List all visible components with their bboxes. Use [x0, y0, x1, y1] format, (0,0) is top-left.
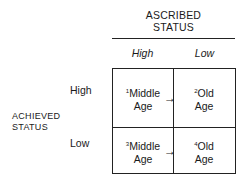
row-axis-title-line2: STATUS — [12, 122, 60, 133]
column-axis-title-line2: STATUS — [112, 21, 235, 33]
cell-2-line1: Old — [198, 87, 214, 99]
column-axis-rule — [112, 38, 235, 39]
row-header-low: Low — [70, 137, 106, 149]
column-axis-title-line1: ASCRIBED — [112, 9, 235, 21]
cell-2-line2: Age — [174, 100, 234, 113]
row-axis-title: ACHIEVED STATUS — [12, 111, 60, 133]
arrow-right-icon: → — [164, 145, 176, 157]
row-header-high: High — [70, 84, 106, 96]
cell-4-line2: Age — [174, 153, 234, 166]
arrow-right-icon: → — [164, 92, 176, 104]
column-axis-title: ASCRIBED STATUS — [112, 9, 235, 33]
column-header-low: Low — [174, 47, 235, 59]
cell-3-line1: Middle — [129, 140, 160, 152]
matrix-horizontal-divider — [112, 127, 236, 128]
cell-4: 4Old Age — [174, 138, 234, 166]
column-header-high: High — [112, 47, 173, 59]
cell-2: 2Old Age — [174, 85, 234, 113]
row-axis-title-line1: ACHIEVED — [12, 111, 60, 122]
cell-1-line1: Middle — [129, 87, 160, 99]
cell-4-line1: Old — [198, 140, 214, 152]
